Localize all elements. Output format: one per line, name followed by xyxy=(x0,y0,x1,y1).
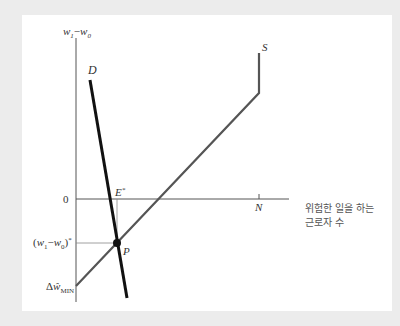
point-p-label: P xyxy=(122,245,130,257)
supply-label: S xyxy=(262,41,268,53)
equilibrium-point-p xyxy=(113,239,121,247)
supply-curve-s xyxy=(76,53,259,286)
min-wage-diff-label: ΔŵMIN xyxy=(46,280,74,295)
x-axis-label-line2: 근로자 수 xyxy=(305,217,344,228)
labor-market-diagram: w1−w0 D S 0 N E* P (w1−w0)* ΔŵMIN 위험한 일을… xyxy=(0,0,400,326)
origin-label: 0 xyxy=(63,193,69,205)
equilibrium-label: E* xyxy=(114,186,126,198)
wage-star-label: (w1−w0)* xyxy=(33,236,72,251)
x-axis-label-line1: 위험한 일을 하는 xyxy=(305,202,374,214)
demand-label: D xyxy=(87,63,97,77)
n-label: N xyxy=(254,201,263,213)
y-axis-label: w1−w0 xyxy=(63,25,91,40)
